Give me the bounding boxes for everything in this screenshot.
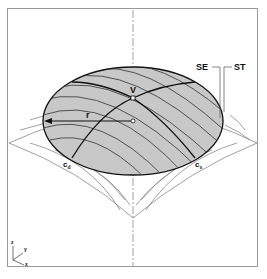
axis-x-label: x bbox=[25, 261, 28, 267]
radius-label: r bbox=[86, 110, 90, 120]
surface-edge-label: SE bbox=[196, 62, 208, 72]
vertex-marker bbox=[131, 96, 135, 100]
vertex-label: V bbox=[130, 85, 136, 95]
axis-y-label: y bbox=[24, 246, 27, 252]
saddle-surface-diagram: V r SE ST cd cs z y x bbox=[0, 0, 267, 279]
axis-triad bbox=[13, 246, 24, 265]
axis-z-label: z bbox=[11, 239, 14, 245]
curve-cs-label: cs bbox=[195, 160, 202, 170]
surface-tangent-label: ST bbox=[234, 62, 246, 72]
curve-cd-label: cd bbox=[63, 160, 71, 170]
center-marker bbox=[131, 119, 135, 123]
